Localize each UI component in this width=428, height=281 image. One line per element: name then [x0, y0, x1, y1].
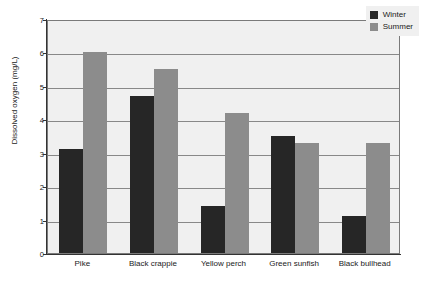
legend-item-label: Summer	[383, 22, 413, 31]
bar-winter-pike	[59, 149, 83, 253]
bar-summer-black-bullhead	[366, 143, 390, 253]
y-axis-tick-label: 2	[4, 183, 44, 192]
y-axis-tick-mark	[43, 87, 46, 88]
bar-winter-green-sunfish	[271, 136, 295, 253]
bar-winter-black-bullhead	[342, 216, 366, 253]
bar-summer-black-crappie	[154, 69, 178, 253]
bar-summer-green-sunfish	[295, 143, 319, 253]
y-axis-tick-mark	[43, 221, 46, 222]
y-axis-tick-mark	[43, 120, 46, 121]
plot-area	[48, 21, 399, 253]
y-axis-title: Dissolved oxygen (mg/L)	[10, 21, 19, 181]
bar-winter-yellow-perch	[201, 206, 225, 253]
x-axis-tick-label: Black bullhead	[339, 259, 391, 268]
legend-item-winter: Winter	[370, 9, 413, 20]
y-axis-ticks: 01234567	[0, 0, 44, 281]
y-axis-tick-mark	[43, 187, 46, 188]
plot-frame	[47, 20, 400, 254]
legend-swatch-icon	[370, 23, 378, 31]
y-axis-tick-mark	[43, 53, 46, 54]
y-axis-tick-label: 1	[4, 216, 44, 225]
x-axis-tick-label: Pike	[75, 259, 91, 268]
x-axis-tick-label: Black crappie	[129, 259, 177, 268]
chart-legend: WinterSummer	[366, 6, 419, 36]
bar-summer-yellow-perch	[225, 113, 249, 253]
bar-winter-black-crappie	[130, 96, 154, 253]
chart-figure: 01234567 Dissolved oxygen (mg/L) PikeBla…	[0, 0, 428, 281]
legend-item-summer: Summer	[370, 21, 413, 32]
x-axis-tick-label: Yellow perch	[201, 259, 246, 268]
legend-item-label: Winter	[383, 10, 406, 19]
legend-swatch-icon	[370, 11, 378, 19]
x-axis-line	[46, 254, 401, 255]
y-axis-tick-mark	[43, 20, 46, 21]
y-axis-tick-mark	[43, 154, 46, 155]
bar-summer-pike	[83, 52, 107, 253]
x-axis-tick-label: Green sunfish	[269, 259, 319, 268]
y-axis-tick-label: 0	[4, 250, 44, 259]
